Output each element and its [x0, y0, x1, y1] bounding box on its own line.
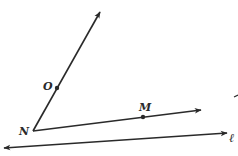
label-line-l: ℓ [229, 131, 234, 145]
ray-nm [33, 110, 201, 131]
ray-no [33, 12, 100, 131]
geometry-diagram: N O M ℓ [0, 0, 238, 156]
line-l [4, 133, 227, 148]
point-m [141, 115, 145, 119]
point-o [55, 86, 59, 90]
label-n: N [18, 125, 30, 138]
label-o: O [43, 80, 53, 93]
edge-mark [234, 95, 238, 97]
label-m: M [138, 101, 152, 114]
